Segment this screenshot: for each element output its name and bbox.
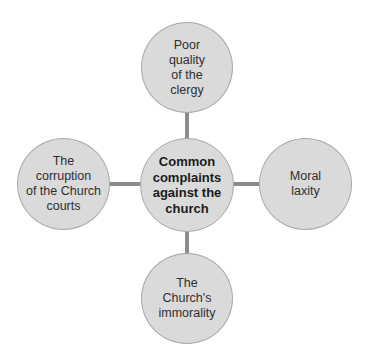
node-label: The Church's immorality — [159, 276, 216, 321]
label-line: quality — [169, 53, 205, 68]
label-line: laxity — [290, 184, 321, 199]
connector-bottom — [185, 229, 189, 255]
node-label: Moral laxity — [290, 169, 321, 199]
label-line: immorality — [159, 306, 216, 321]
label-line: Moral — [290, 169, 321, 184]
node-moral-laxity: Moral laxity — [259, 138, 352, 230]
connector-left — [108, 182, 142, 186]
label-line: complaints — [153, 170, 222, 186]
label-line: Common — [153, 154, 222, 170]
label-line: against the — [153, 185, 222, 201]
label-line: of the — [169, 68, 205, 83]
label-line: Church's — [159, 291, 216, 306]
connector-right — [232, 182, 261, 186]
node-churchs-immorality: The Church's immorality — [141, 253, 233, 344]
label-line: Poor — [169, 38, 205, 53]
label-line: corruption — [26, 169, 101, 184]
node-center-common-complaints: Common complaints against the church — [140, 138, 234, 232]
node-poor-quality-of-clergy: Poor quality of the clergy — [141, 22, 233, 113]
label-line: The — [159, 276, 216, 291]
node-label: The corruption of the Church courts — [26, 154, 101, 214]
label-line: church — [153, 201, 222, 217]
connector-top — [185, 110, 189, 140]
label-line: clergy — [169, 83, 205, 98]
mind-map-diagram: Poor quality of the clergy The corruptio… — [0, 0, 367, 358]
label-line: courts — [26, 199, 101, 214]
node-label: Poor quality of the clergy — [169, 38, 205, 98]
label-line: of the Church — [26, 184, 101, 199]
center-label: Common complaints against the church — [153, 154, 222, 216]
label-line: The — [26, 154, 101, 169]
node-corruption-of-church-courts: The corruption of the Church courts — [17, 138, 110, 230]
